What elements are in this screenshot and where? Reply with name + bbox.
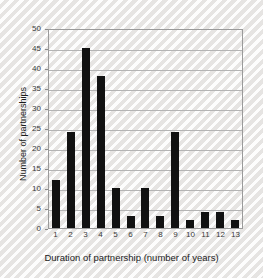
- y-tick-label: 40: [32, 65, 41, 73]
- y-tick-label: 25: [32, 125, 41, 133]
- y-tick-label: 15: [32, 165, 41, 173]
- bar: [82, 48, 90, 228]
- bar: [112, 188, 120, 228]
- y-tick-label: 5: [37, 205, 41, 213]
- bar: [52, 180, 60, 228]
- y-axis-ticks: 05101520253035404550: [0, 0, 48, 229]
- bar-chart-figure: Number of partnerships 05101520253035404…: [0, 0, 263, 278]
- y-tick-label: 45: [32, 45, 41, 53]
- x-tick-label: 3: [79, 231, 93, 240]
- x-tick-label: 2: [64, 231, 78, 240]
- bar: [186, 220, 194, 228]
- y-tick-label: 10: [32, 185, 41, 193]
- x-axis-ticks: 12345678910111213: [48, 231, 243, 240]
- bar: [127, 216, 135, 228]
- bar: [231, 220, 239, 228]
- y-tick-label: 35: [32, 85, 41, 93]
- bar: [201, 212, 209, 228]
- y-tick-label: 0: [37, 225, 41, 233]
- x-tick-label: 13: [229, 231, 243, 240]
- bar: [141, 188, 149, 228]
- x-tick-label: 10: [184, 231, 198, 240]
- x-tick-label: 11: [199, 231, 213, 240]
- bar-series: [49, 30, 242, 228]
- x-tick-label: 7: [139, 231, 153, 240]
- x-tick-label: 8: [154, 231, 168, 240]
- x-tick-label: 6: [124, 231, 138, 240]
- y-tick-mark: [45, 229, 48, 230]
- x-tick-label: 12: [214, 231, 228, 240]
- x-tick-label: 1: [49, 231, 63, 240]
- bar: [216, 212, 224, 228]
- bar: [171, 132, 179, 228]
- bar: [156, 216, 164, 228]
- bar: [67, 132, 75, 228]
- y-tick-label: 30: [32, 105, 41, 113]
- y-tick-label: 50: [32, 25, 41, 33]
- bar: [97, 76, 105, 228]
- plot-area: [48, 29, 243, 229]
- x-axis-title: Duration of partnership (number of years…: [0, 252, 263, 263]
- y-tick-label: 20: [32, 145, 41, 153]
- x-tick-label: 4: [94, 231, 108, 240]
- x-tick-label: 9: [169, 231, 183, 240]
- x-tick-label: 5: [109, 231, 123, 240]
